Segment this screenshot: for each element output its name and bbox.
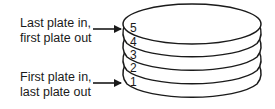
plate-number-1: 1 (130, 75, 137, 89)
plate-number-3: 3 (130, 48, 137, 62)
plate-number-4: 4 (130, 35, 137, 49)
plate-number-2: 2 (130, 61, 137, 75)
plates-group: 54321 (123, 4, 261, 97)
plate-5 (123, 4, 261, 44)
plate-number-5: 5 (130, 21, 137, 35)
plate-stack-diagram: 54321 (0, 0, 275, 109)
